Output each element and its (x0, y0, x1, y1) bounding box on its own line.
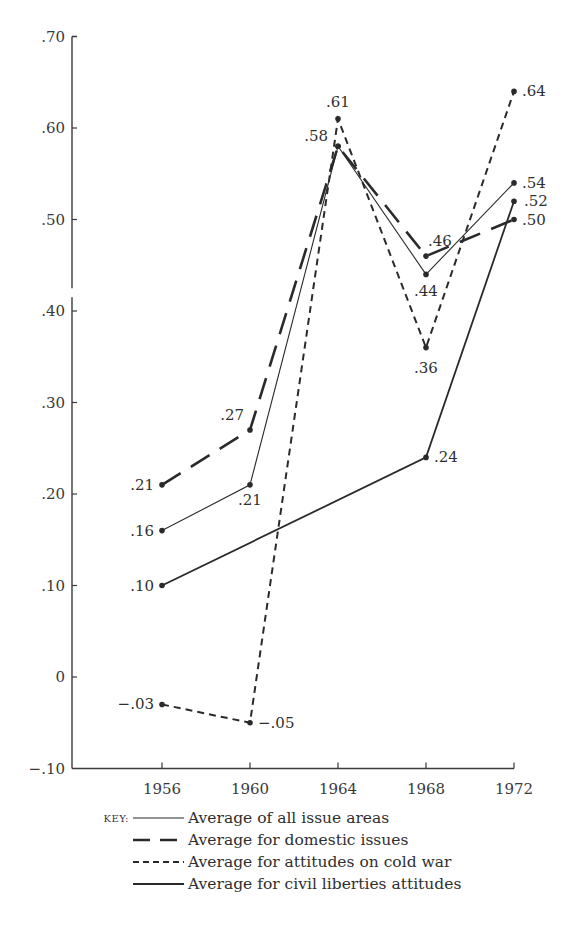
data-label: .52 (524, 192, 548, 210)
series-line-0 (162, 146, 514, 530)
y-tick-label: .60 (41, 119, 65, 137)
line-chart: .70.60.50.40.30.20.100−.1019561960196419… (0, 0, 572, 936)
data-label: −.03 (118, 695, 154, 713)
y-tick-label: .40 (41, 302, 65, 320)
data-point (511, 198, 517, 204)
chart-series (159, 89, 517, 726)
y-tick-label: .30 (41, 394, 65, 412)
data-point (159, 583, 165, 589)
data-label: .44 (414, 282, 438, 300)
legend-entry: Average for domestic issues (187, 831, 408, 849)
y-tick-label: −.10 (29, 760, 65, 778)
data-label: .58 (304, 127, 328, 145)
chart-axes: .70.60.50.40.30.20.100−.1019561960196419… (29, 28, 534, 798)
data-label: .21 (130, 476, 154, 494)
data-point (247, 482, 253, 488)
data-point (335, 144, 341, 150)
chart-legend: KEY:Average of all issue areasAverage fo… (103, 809, 461, 893)
x-tick-label: 1972 (495, 780, 533, 798)
data-label: .24 (434, 448, 458, 466)
data-label: −.05 (258, 714, 294, 732)
data-label: .61 (326, 93, 350, 111)
data-point (159, 482, 165, 488)
data-label: .36 (414, 359, 438, 377)
data-label: .54 (522, 174, 546, 192)
x-tick-label: 1968 (407, 780, 445, 798)
data-point (423, 272, 429, 278)
data-label: .50 (522, 211, 546, 229)
y-tick-label: 0 (55, 668, 65, 686)
data-point (511, 217, 517, 223)
series-line-1 (162, 146, 514, 485)
data-point (511, 89, 517, 95)
data-point (159, 702, 165, 708)
data-label: .46 (428, 232, 452, 250)
data-label: .27 (220, 406, 244, 424)
legend-entry: Average for attitudes on cold war (187, 853, 452, 871)
legend-entry: Average for civil liberties attitudes (187, 875, 461, 893)
data-point (247, 720, 253, 726)
y-tick-label: .10 (41, 577, 65, 595)
data-point (247, 427, 253, 433)
x-tick-label: 1964 (319, 780, 357, 798)
data-label: .16 (130, 522, 154, 540)
y-tick-label: .20 (41, 485, 65, 503)
data-point (159, 528, 165, 534)
data-label: .64 (522, 82, 546, 100)
x-tick-label: 1956 (143, 780, 181, 798)
x-tick-label: 1960 (231, 780, 269, 798)
y-tick-label: .50 (41, 211, 65, 229)
data-point (423, 345, 429, 351)
legend-entry: Average of all issue areas (187, 809, 389, 827)
legend-key-label: KEY: (103, 813, 129, 824)
data-point (335, 116, 341, 122)
data-label: .10 (130, 577, 154, 595)
y-tick-label: .70 (41, 28, 65, 46)
series-line-2 (162, 91, 514, 722)
series-line-3 (162, 201, 514, 585)
data-point (423, 253, 429, 259)
data-label: .21 (238, 491, 262, 509)
data-point (423, 455, 429, 461)
data-point (511, 180, 517, 186)
